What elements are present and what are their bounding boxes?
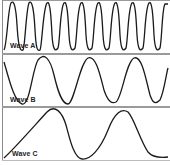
waveforms-svg bbox=[0, 0, 170, 165]
wave-a-label: Wave A bbox=[10, 42, 35, 49]
wave-b-label: Wave B bbox=[10, 96, 36, 103]
wave-c-label: Wave C bbox=[12, 150, 38, 157]
